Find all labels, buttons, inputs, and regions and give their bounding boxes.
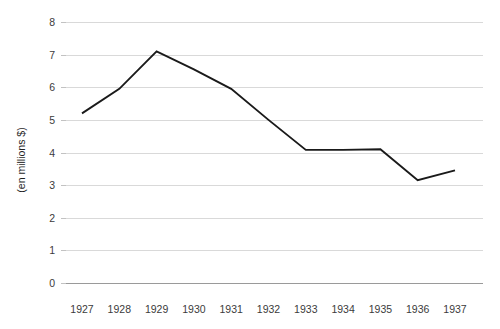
- y-axis-title: (en millions $): [15, 127, 27, 192]
- chart-background: [0, 0, 500, 329]
- x-tick-label: 1930: [182, 303, 206, 315]
- y-tick-label-group: 012345678: [49, 16, 55, 289]
- y-tick-label: 1: [49, 244, 55, 256]
- x-tick-label: 1927: [70, 303, 94, 315]
- x-tick-label: 1937: [443, 303, 467, 315]
- x-tick-label: 1931: [220, 303, 244, 315]
- x-tick-label-group: 1927192819291930193119321933193419351936…: [70, 303, 467, 315]
- x-tick-label: 1936: [406, 303, 430, 315]
- x-tick-label: 1935: [369, 303, 393, 315]
- chart-canvas: 012345678 192719281929193019311932193319…: [0, 0, 500, 329]
- x-tick-label: 1933: [294, 303, 318, 315]
- x-tick-label: 1929: [145, 303, 169, 315]
- y-tick-label: 3: [49, 179, 55, 191]
- y-tick-label: 2: [49, 212, 55, 224]
- y-tick-label: 4: [49, 147, 55, 159]
- y-tick-label: 0: [49, 277, 55, 289]
- x-tick-label: 1928: [108, 303, 132, 315]
- x-tick-label: 1932: [257, 303, 281, 315]
- x-tick-label: 1934: [331, 303, 355, 315]
- y-tick-label: 8: [49, 16, 55, 28]
- y-tick-label: 7: [49, 49, 55, 61]
- y-tick-label: 5: [49, 114, 55, 126]
- y-tick-label: 6: [49, 81, 55, 93]
- line-chart: 012345678 192719281929193019311932193319…: [0, 0, 500, 329]
